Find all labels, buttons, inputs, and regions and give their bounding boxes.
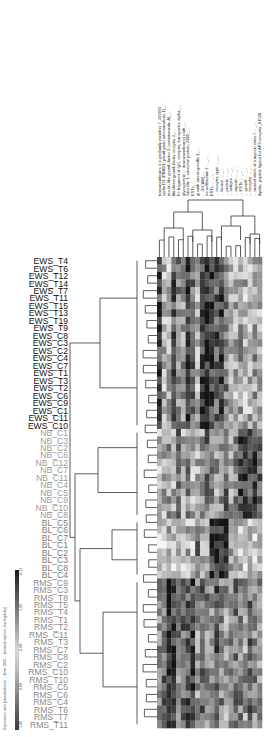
heatmap-cell	[176, 504, 181, 512]
heatmap-cell	[243, 377, 248, 385]
heatmap-cell	[162, 616, 167, 624]
heatmap-cell	[229, 541, 234, 549]
heatmap-cell	[229, 616, 234, 624]
heatmap-cell	[243, 287, 248, 295]
heatmap-cell	[257, 549, 262, 557]
heatmap-cell	[181, 451, 186, 459]
heatmap-cell	[176, 377, 181, 385]
heatmap-cell	[233, 511, 238, 519]
heatmap-cell	[195, 369, 200, 377]
heatmap-cell	[233, 399, 238, 407]
heatmap-cell	[252, 556, 257, 564]
heatmap-cell	[248, 623, 253, 631]
heatmap-cell	[210, 421, 215, 429]
heatmap-cell	[243, 489, 248, 497]
heatmap-cell	[190, 377, 195, 385]
heatmap-cell	[176, 691, 181, 699]
heatmap-cell	[205, 264, 210, 272]
heatmap-cell	[248, 309, 253, 317]
heatmap-cell	[162, 653, 167, 661]
heatmap-cell	[238, 631, 243, 639]
heatmap-cell	[205, 272, 210, 280]
heatmap-cell	[210, 339, 215, 347]
heatmap-cell	[205, 399, 210, 407]
heatmap-cell	[157, 332, 162, 340]
heatmap-cell	[157, 631, 162, 639]
heatmap-cell	[229, 556, 234, 564]
heatmap-cell	[171, 653, 176, 661]
heatmap-cell	[238, 272, 243, 280]
heatmap-cell	[157, 676, 162, 684]
heatmap-cell	[167, 519, 172, 527]
heatmap-cell	[181, 384, 186, 392]
heatmap-cell	[248, 362, 253, 370]
heatmap-cell	[205, 436, 210, 444]
heatmap-cell	[252, 541, 257, 549]
heatmap-cell	[257, 676, 262, 684]
heatmap-cell	[162, 384, 167, 392]
heatmap-cell	[219, 429, 224, 437]
heatmap-cell	[248, 571, 253, 579]
heatmap-cell	[229, 362, 234, 370]
heatmap-cell	[205, 706, 210, 714]
heatmap-cell	[224, 706, 229, 714]
heatmap-cell	[229, 451, 234, 459]
heatmap-cell	[181, 339, 186, 347]
heatmap-cell	[252, 496, 257, 504]
heatmap-cell	[195, 519, 200, 527]
heatmap-cell	[210, 541, 215, 549]
heatmap-cell	[171, 466, 176, 474]
heatmap-cell	[190, 347, 195, 355]
heatmap-cell	[171, 294, 176, 302]
heatmap-cell	[171, 474, 176, 482]
heatmap-cell	[157, 541, 162, 549]
heatmap-cell	[167, 698, 172, 706]
heatmap-cell	[233, 257, 238, 265]
heatmap-cell	[157, 272, 162, 280]
heatmap-cell	[252, 414, 257, 422]
heatmap-cell	[243, 698, 248, 706]
heatmap-cell	[233, 631, 238, 639]
heatmap-cell	[210, 549, 215, 557]
heatmap-cell	[210, 661, 215, 669]
heatmap-cell	[167, 257, 172, 265]
heatmap-cell	[200, 279, 205, 287]
heatmap-cell	[233, 683, 238, 691]
heatmap-cell	[210, 407, 215, 415]
heatmap-cell	[176, 317, 181, 325]
heatmap-cell	[238, 392, 243, 400]
heatmap-cell	[219, 578, 224, 586]
heatmap-cell	[190, 556, 195, 564]
heatmap-cell	[171, 698, 176, 706]
heatmap-cell	[214, 623, 219, 631]
heatmap-cell	[214, 459, 219, 467]
heatmap-cell	[171, 549, 176, 557]
heatmap-cell	[219, 459, 224, 467]
heatmap-cell	[190, 706, 195, 714]
heatmap-cell	[257, 384, 262, 392]
heatmap-cell	[190, 436, 195, 444]
heatmap-cell	[157, 384, 162, 392]
heatmap-cell	[233, 332, 238, 340]
heatmap-cell	[157, 407, 162, 415]
heatmap-cell	[190, 489, 195, 497]
heatmap-cell	[214, 362, 219, 370]
heatmap-cell	[186, 459, 191, 467]
heatmap-cell	[219, 593, 224, 601]
heatmap-cell	[190, 616, 195, 624]
heatmap-cell	[224, 392, 229, 400]
heatmap-cell	[190, 481, 195, 489]
heatmap-cell	[190, 279, 195, 287]
heatmap-cell	[248, 436, 253, 444]
heatmap-cell	[190, 534, 195, 542]
dendrogram-branch	[174, 212, 203, 230]
heatmap-cell	[257, 279, 262, 287]
heatmap-cell	[205, 586, 210, 594]
heatmap-cell	[248, 631, 253, 639]
heatmap-cell	[219, 676, 224, 684]
heatmap-cell	[210, 451, 215, 459]
heatmap-cell	[200, 294, 205, 302]
heatmap-cell	[200, 399, 205, 407]
heatmap-cell	[224, 459, 229, 467]
heatmap-cell	[162, 586, 167, 594]
